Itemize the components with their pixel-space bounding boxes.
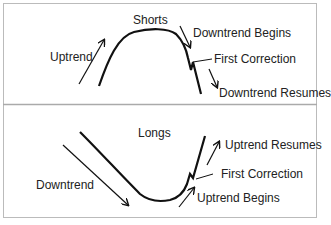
downtrend-begins-arrow-icon: [180, 26, 190, 47]
longs-uptrend-resumes-label: Uptrend Resumes: [225, 139, 322, 151]
longs-price-curve: [80, 132, 205, 201]
longs-uptrend-begins-label: Uptrend Begins: [197, 192, 280, 204]
longs-first-correction-label: First Correction: [221, 168, 303, 180]
uptrend-resumes-arrow-icon: [207, 142, 219, 165]
shorts-first-correction-label: First Correction: [214, 53, 296, 65]
downtrend-arrow-icon: [63, 145, 128, 205]
shorts-downtrend-resumes-label: Downtrend Resumes: [219, 87, 331, 99]
correction-pointer-line: [196, 174, 213, 179]
longs-downtrend-label: Downtrend: [36, 179, 94, 191]
longs-title: Longs: [138, 127, 171, 139]
shorts-downtrend-begins-label: Downtrend Begins: [193, 27, 291, 39]
shorts-uptrend-label: Uptrend: [50, 51, 93, 63]
longs-panel: [63, 132, 219, 207]
downtrend-resumes-arrow-icon: [209, 69, 217, 87]
uptrend-begins-arrow-icon: [179, 188, 194, 207]
correction-pointer-line: [193, 59, 212, 62]
shorts-title: Shorts: [133, 14, 168, 26]
